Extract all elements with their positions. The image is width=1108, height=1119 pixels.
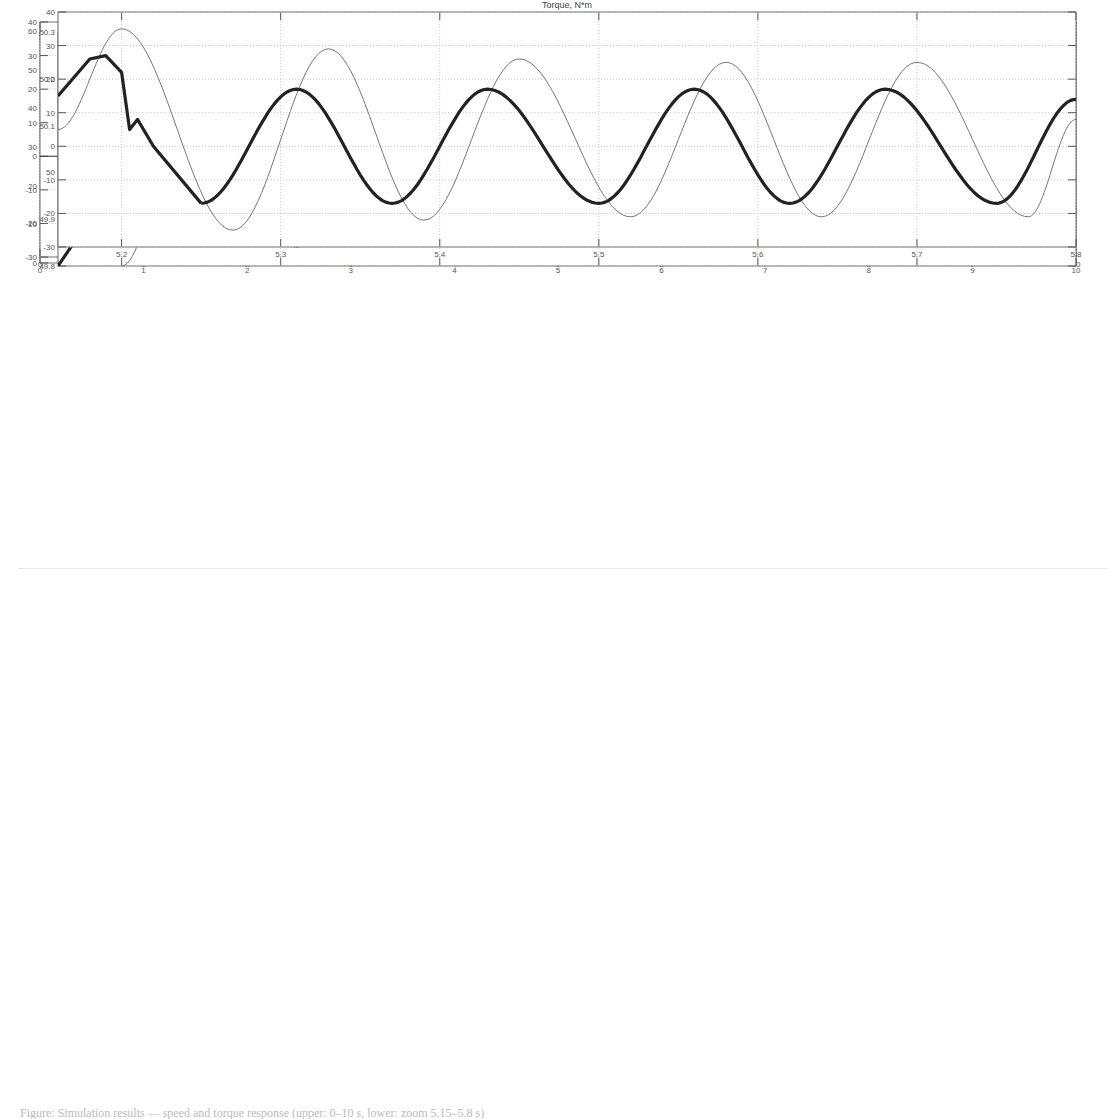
svg-text:10: 10 bbox=[46, 109, 55, 118]
svg-text:-10: -10 bbox=[43, 176, 55, 185]
svg-text:5.6: 5.6 bbox=[752, 269, 764, 270]
svg-text:20: 20 bbox=[46, 75, 55, 84]
svg-text:5.5: 5.5 bbox=[593, 269, 605, 270]
svg-text:5.2: 5.2 bbox=[116, 250, 128, 259]
svg-text:5.4: 5.4 bbox=[434, 269, 446, 270]
svg-text:30: 30 bbox=[46, 42, 55, 51]
svg-text:5.3: 5.3 bbox=[275, 250, 287, 259]
svg-text:5.6: 5.6 bbox=[752, 250, 764, 259]
svg-text:-20: -20 bbox=[43, 209, 55, 218]
svg-text:5.4: 5.4 bbox=[434, 250, 446, 259]
svg-text:5.8: 5.8 bbox=[1070, 269, 1082, 270]
svg-text:5.7: 5.7 bbox=[911, 250, 923, 259]
svg-text:0: 0 bbox=[51, 142, 56, 151]
svg-text:5.8: 5.8 bbox=[1070, 250, 1082, 259]
svg-text:-30: -30 bbox=[43, 243, 55, 252]
svg-text:49.8: 49.8 bbox=[39, 262, 55, 270]
svg-text:40: 40 bbox=[46, 8, 55, 17]
svg-text:5.3: 5.3 bbox=[275, 269, 287, 270]
svg-text:5.7: 5.7 bbox=[911, 269, 923, 270]
separator-line bbox=[18, 568, 1108, 569]
figure-caption: Figure: Simulation results — speed and t… bbox=[20, 1106, 1090, 1119]
torque-zoom-chart: 5.25.35.45.55.65.75.8-30-20-10010203040T… bbox=[0, 0, 1106, 262]
svg-text:5.2: 5.2 bbox=[116, 269, 128, 270]
svg-text:Torque, N*m: Torque, N*m bbox=[542, 0, 592, 10]
svg-text:5.5: 5.5 bbox=[593, 250, 605, 259]
